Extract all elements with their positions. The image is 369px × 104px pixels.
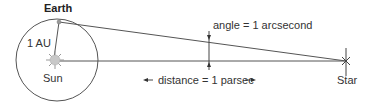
star-label: Star [337, 75, 357, 86]
parallax-diagram [0, 0, 369, 104]
earth-label: Earth [44, 3, 72, 14]
distance-label: distance = 1 parsec [158, 75, 254, 86]
sun-label: Sun [43, 73, 63, 84]
angle-label: angle = 1 arcsecond [213, 20, 312, 31]
earth-dot-icon [57, 20, 61, 24]
sun-icon [46, 51, 64, 69]
star-cross-icon [342, 48, 350, 76]
distance-arrow-left-icon [143, 78, 153, 82]
au-label: 1 AU [27, 38, 51, 49]
angle-marker [207, 31, 211, 70]
